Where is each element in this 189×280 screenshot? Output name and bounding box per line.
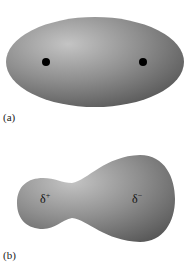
partial-positive-charge: δ+ [40, 191, 50, 207]
nucleus-left-icon [42, 58, 50, 66]
partial-negative-charge: δ− [132, 191, 142, 207]
diagram-canvas [0, 0, 189, 280]
panel-label-b: (b) [3, 249, 16, 261]
nucleus-right-icon [139, 58, 147, 66]
plus-sign: + [46, 191, 51, 200]
panel-label-a: (a) [3, 111, 15, 123]
minus-sign: − [138, 191, 143, 200]
nonpolar-molecule-cloud [6, 17, 184, 107]
